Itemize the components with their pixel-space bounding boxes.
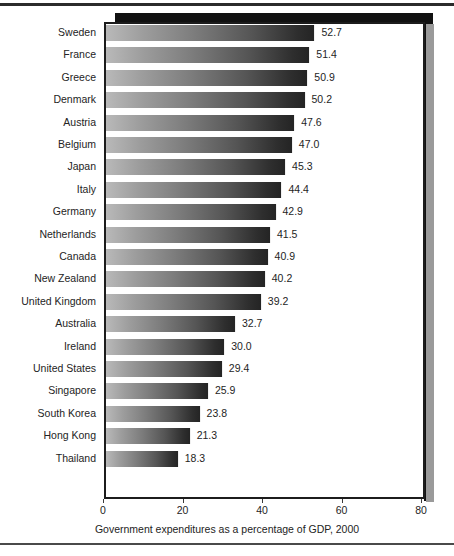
x-axis-tick-label: 40: [242, 504, 282, 517]
bar-value-label: 47.6: [301, 116, 321, 129]
bar-value-label: 29.4: [229, 362, 249, 375]
bar-value-label: 52.7: [321, 26, 341, 39]
bar: [106, 249, 269, 265]
bar-value-label: 45.3: [292, 160, 312, 173]
bar-value-label: 42.9: [283, 205, 303, 218]
bar-value-label: 50.2: [312, 93, 332, 106]
bar-category-label: Italy: [0, 183, 96, 196]
bar-row: New Zealand40.2: [0, 268, 454, 290]
bar-rows: Sweden52.7France51.4Greece50.9Denmark50.…: [0, 22, 454, 499]
bar-category-label: Thailand: [0, 452, 96, 465]
bar-value-label: 51.4: [316, 48, 336, 61]
bar-row: Singapore25.9: [0, 380, 454, 402]
bar-value-label: 25.9: [215, 384, 235, 397]
bar-value-label: 40.9: [275, 250, 295, 263]
x-axis-tick: [183, 499, 184, 503]
bar: [106, 361, 223, 377]
bar-row: Austria47.6: [0, 112, 454, 134]
bar: [106, 70, 308, 86]
x-axis-tick: [342, 499, 343, 503]
bar-value-label: 41.5: [277, 228, 297, 241]
bar-row: Denmark50.2: [0, 89, 454, 111]
page-rule-bottom: [0, 543, 454, 545]
bar: [106, 47, 310, 63]
x-axis-tick-label: 20: [163, 504, 203, 517]
x-axis-tick: [103, 499, 104, 503]
bar-category-label: United Kingdom: [0, 295, 96, 308]
bar-row: Greece50.9: [0, 67, 454, 89]
bar: [106, 159, 286, 175]
bar: [106, 339, 225, 355]
bar-row: Japan45.3: [0, 156, 454, 178]
bar-row: Canada40.9: [0, 246, 454, 268]
bar-row: France51.4: [0, 44, 454, 66]
bar-category-label: Austria: [0, 116, 96, 129]
bar-row: Netherlands41.5: [0, 224, 454, 246]
bar-row: Sweden52.7: [0, 22, 454, 44]
bar-category-label: Greece: [0, 71, 96, 84]
bar-category-label: Japan: [0, 160, 96, 173]
chart-figure: Sweden52.7France51.4Greece50.9Denmark50.…: [0, 0, 454, 556]
bar-value-label: 50.9: [314, 71, 334, 84]
x-axis-tick: [421, 499, 422, 503]
bar-category-label: Netherlands: [0, 228, 96, 241]
bar-category-label: South Korea: [0, 407, 96, 420]
bar: [106, 182, 282, 198]
bar-category-label: Germany: [0, 205, 96, 218]
bar-category-label: Australia: [0, 317, 96, 330]
bar: [106, 294, 262, 310]
bar-category-label: Denmark: [0, 93, 96, 106]
bar-category-label: Ireland: [0, 340, 96, 353]
bar-row: Thailand18.3: [0, 448, 454, 470]
bar-value-label: 21.3: [197, 429, 217, 442]
bar-row: Italy44.4: [0, 179, 454, 201]
bar-value-label: 30.0: [231, 340, 251, 353]
bar-category-label: Canada: [0, 250, 96, 263]
bar-category-label: United States: [0, 362, 96, 375]
page-rule-top: [0, 3, 454, 6]
bar: [106, 137, 293, 153]
bar-value-label: 23.8: [207, 407, 227, 420]
bar-category-label: Belgium: [0, 138, 96, 151]
bar: [106, 383, 209, 399]
bar-value-label: 44.4: [288, 183, 308, 196]
x-axis-tick-label: 0: [83, 504, 123, 517]
bar-value-label: 18.3: [185, 452, 205, 465]
bar-category-label: France: [0, 48, 96, 61]
bar-category-label: Singapore: [0, 384, 96, 397]
x-axis-tick-label: 60: [322, 504, 362, 517]
bar-row: Germany42.9: [0, 201, 454, 223]
bar: [106, 316, 236, 332]
bar: [106, 406, 201, 422]
bar: [106, 451, 179, 467]
x-axis-tick: [262, 499, 263, 503]
bar-value-label: 40.2: [272, 272, 292, 285]
bar-row: United Kingdom39.2: [0, 291, 454, 313]
bar: [106, 271, 266, 287]
bar: [106, 428, 191, 444]
bar-row: Hong Kong21.3: [0, 425, 454, 447]
bar-row: United States29.4: [0, 358, 454, 380]
bar: [106, 115, 295, 131]
bar: [106, 92, 306, 108]
bar: [106, 204, 277, 220]
bar-value-label: 39.2: [268, 295, 288, 308]
bar-value-label: 32.7: [242, 317, 262, 330]
bar-category-label: Hong Kong: [0, 429, 96, 442]
x-axis-tick-label: 80: [401, 504, 441, 517]
bar-row: Ireland30.0: [0, 336, 454, 358]
x-axis-caption: Government expenditures as a percentage …: [0, 522, 454, 536]
bar: [106, 227, 271, 243]
bar-row: Belgium47.0: [0, 134, 454, 156]
bar-value-label: 47.0: [299, 138, 319, 151]
bar-category-label: Sweden: [0, 26, 96, 39]
bar-category-label: New Zealand: [0, 272, 96, 285]
bar-row: South Korea23.8: [0, 403, 454, 425]
bar: [106, 25, 315, 41]
bar-row: Australia32.7: [0, 313, 454, 335]
